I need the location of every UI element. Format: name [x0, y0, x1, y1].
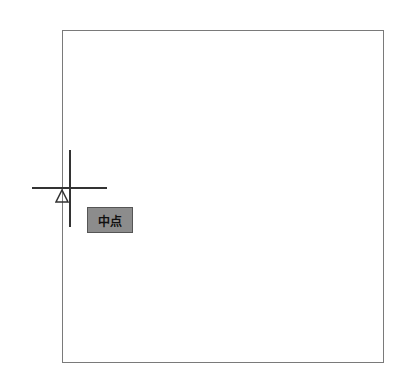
snap-tooltip: 中点	[87, 207, 133, 233]
midpoint-triangle-icon	[55, 189, 69, 203]
snap-tooltip-label: 中点	[98, 212, 122, 229]
drawing-canvas[interactable]: 中点	[0, 0, 415, 386]
rectangle-shape[interactable]	[62, 30, 384, 363]
crosshair-vertical-line	[69, 150, 71, 227]
